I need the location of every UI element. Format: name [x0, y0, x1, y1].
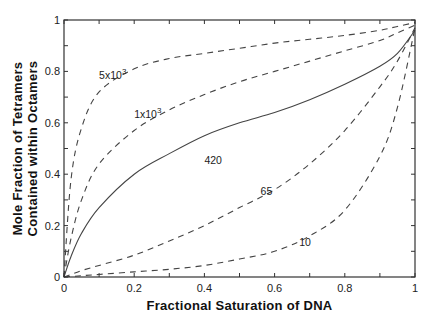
curve-10 — [64, 28, 415, 277]
y-axis-title-line-2: Contained within Octamers — [25, 61, 40, 237]
y-tick-label: 0 — [54, 271, 60, 283]
y-tick-label: 0.4 — [45, 168, 60, 180]
curve-420 — [64, 30, 415, 277]
axis-ticks: 00.20.40.60.8100.20.40.60.81 — [45, 14, 418, 294]
x-tick-label: 0 — [61, 282, 67, 294]
curve-label: 65 — [261, 185, 273, 197]
curve-label: 10 — [299, 236, 311, 248]
curves — [64, 23, 415, 277]
plot-frame — [64, 20, 415, 277]
curve-label: 1x103 — [134, 106, 162, 120]
chart-canvas: 00.20.40.60.8100.20.40.60.81 5x1031x1034… — [0, 0, 428, 325]
x-axis-title: Fractional Saturation of DNA — [146, 298, 332, 313]
y-tick-label: 1 — [54, 14, 60, 26]
curve-5x10-3 — [64, 23, 415, 277]
y-tick-label: 0.8 — [45, 65, 60, 77]
curve-label: 5x103 — [99, 67, 127, 81]
x-tick-label: 0.2 — [127, 282, 142, 294]
y-tick-label: 0.2 — [45, 220, 60, 232]
y-axis-title-line-1: Mole Fraction of Tetramers — [10, 62, 25, 236]
x-tick-label: 1 — [412, 282, 418, 294]
y-tick-label: 0.6 — [45, 117, 60, 129]
x-tick-label: 0.4 — [197, 282, 212, 294]
curve-65 — [64, 28, 415, 277]
x-tick-label: 0.8 — [337, 282, 352, 294]
curve-1x10-3 — [64, 25, 415, 277]
x-tick-label: 0.6 — [267, 282, 282, 294]
curve-label: 420 — [204, 154, 222, 166]
